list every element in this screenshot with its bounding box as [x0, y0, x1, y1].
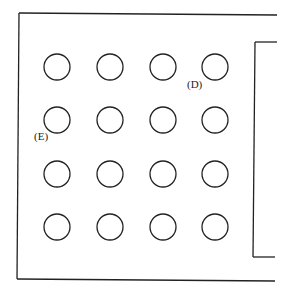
grid-circle	[150, 214, 176, 240]
grid-circle	[202, 107, 228, 133]
grid-circle	[44, 54, 70, 80]
label-d: (D)	[187, 78, 202, 90]
grid-circle	[97, 161, 123, 187]
grid-circle	[150, 54, 176, 80]
grid-circle	[97, 54, 123, 80]
diagram-canvas	[0, 0, 287, 287]
grid-circle	[150, 107, 176, 133]
grid-circle	[97, 107, 123, 133]
outer-frame	[17, 13, 277, 281]
grid-circle	[202, 214, 228, 240]
grid-circle	[202, 54, 228, 80]
grid-circle	[97, 214, 123, 240]
label-e: (E)	[34, 130, 48, 142]
grid-circle	[44, 214, 70, 240]
inner-bracket	[253, 42, 277, 257]
grid-circle	[44, 161, 70, 187]
grid-circle	[150, 161, 176, 187]
grid-circle	[202, 161, 228, 187]
